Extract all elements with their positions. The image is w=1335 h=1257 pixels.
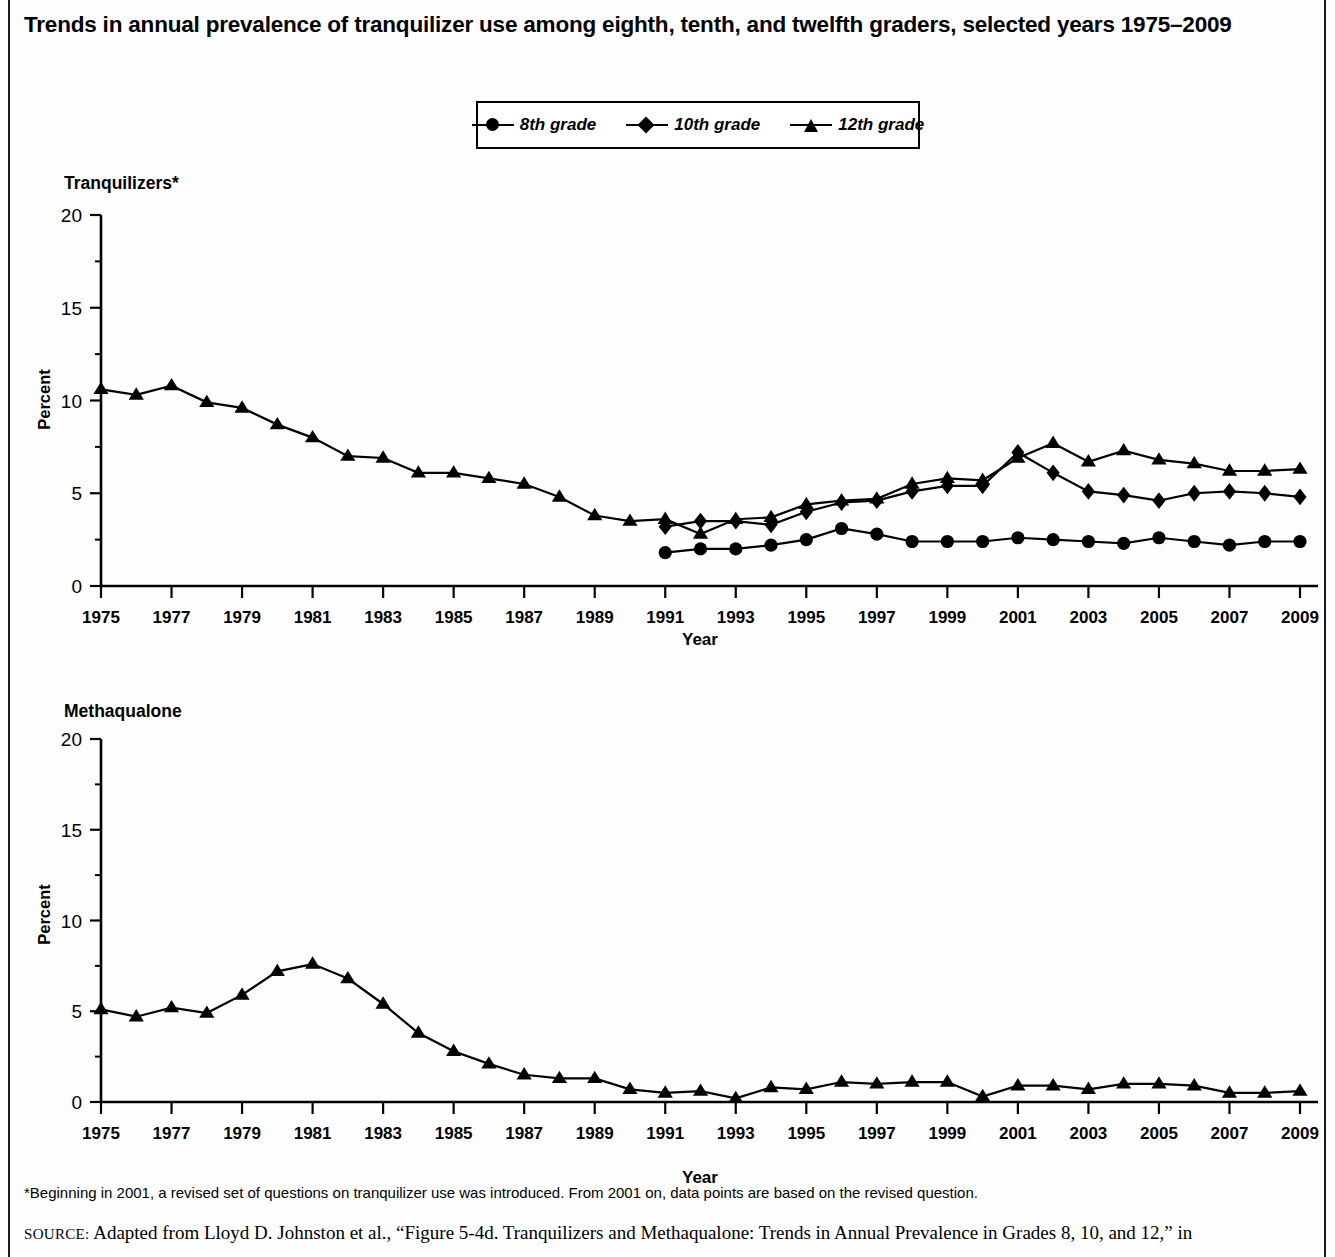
svg-text:15: 15 bbox=[61, 820, 82, 841]
svg-text:15: 15 bbox=[61, 298, 82, 319]
svg-text:1975: 1975 bbox=[82, 1124, 120, 1143]
svg-text:1993: 1993 bbox=[717, 1124, 755, 1143]
svg-text:1985: 1985 bbox=[435, 1124, 473, 1143]
svg-text:1999: 1999 bbox=[928, 1124, 966, 1143]
svg-text:1999: 1999 bbox=[928, 608, 966, 627]
svg-text:5: 5 bbox=[71, 483, 82, 504]
svg-text:1995: 1995 bbox=[787, 608, 825, 627]
svg-text:1989: 1989 bbox=[576, 1124, 614, 1143]
svg-text:0: 0 bbox=[71, 576, 82, 597]
svg-text:1991: 1991 bbox=[646, 608, 684, 627]
svg-text:1985: 1985 bbox=[435, 608, 473, 627]
svg-text:1991: 1991 bbox=[646, 1124, 684, 1143]
figure-page: Trends in annual prevalence of tranquili… bbox=[0, 0, 1335, 1257]
svg-text:1997: 1997 bbox=[858, 1124, 896, 1143]
plot-area-methaqualone: 0510152019751977197919811983198519871989… bbox=[0, 660, 1335, 1180]
svg-text:1981: 1981 bbox=[294, 1124, 332, 1143]
svg-text:1983: 1983 bbox=[364, 608, 402, 627]
svg-text:2003: 2003 bbox=[1069, 608, 1107, 627]
svg-text:10: 10 bbox=[61, 391, 82, 412]
svg-text:1989: 1989 bbox=[576, 608, 614, 627]
svg-text:10: 10 bbox=[61, 911, 82, 932]
figure-footnote: *Beginning in 2001, a revised set of que… bbox=[24, 1184, 978, 1201]
svg-text:1997: 1997 bbox=[858, 608, 896, 627]
svg-text:2009: 2009 bbox=[1281, 1124, 1319, 1143]
svg-text:1977: 1977 bbox=[153, 1124, 191, 1143]
svg-text:2005: 2005 bbox=[1140, 608, 1178, 627]
svg-text:2007: 2007 bbox=[1211, 1124, 1249, 1143]
svg-text:20: 20 bbox=[61, 205, 82, 226]
svg-text:2005: 2005 bbox=[1140, 1124, 1178, 1143]
svg-text:1981: 1981 bbox=[294, 608, 332, 627]
svg-text:1975: 1975 bbox=[82, 608, 120, 627]
svg-text:1987: 1987 bbox=[505, 1124, 543, 1143]
plot-area-tranquilizers: 0510152019751977197919811983198519871989… bbox=[0, 0, 1335, 660]
svg-text:1987: 1987 bbox=[505, 608, 543, 627]
svg-text:2001: 2001 bbox=[999, 608, 1037, 627]
svg-text:1995: 1995 bbox=[787, 1124, 825, 1143]
chart-panel-tranquilizers: Tranquilizers* Percent Year 051015201975… bbox=[0, 0, 1335, 660]
svg-text:5: 5 bbox=[71, 1001, 82, 1022]
svg-text:2003: 2003 bbox=[1069, 1124, 1107, 1143]
figure-source: SOURCE: Adapted from Lloyd D. Johnston e… bbox=[24, 1222, 1192, 1244]
svg-text:1993: 1993 bbox=[717, 608, 755, 627]
svg-text:2001: 2001 bbox=[999, 1124, 1037, 1143]
svg-text:2007: 2007 bbox=[1211, 608, 1249, 627]
source-prefix: SOURCE: bbox=[24, 1226, 89, 1242]
svg-text:1983: 1983 bbox=[364, 1124, 402, 1143]
svg-text:0: 0 bbox=[71, 1092, 82, 1113]
chart-panel-methaqualone: Methaqualone Percent Year 05101520197519… bbox=[0, 660, 1335, 1180]
svg-text:1977: 1977 bbox=[153, 608, 191, 627]
svg-text:2009: 2009 bbox=[1281, 608, 1319, 627]
svg-text:1979: 1979 bbox=[223, 608, 261, 627]
source-body: Adapted from Lloyd D. Johnston et al., “… bbox=[89, 1222, 1192, 1243]
svg-text:20: 20 bbox=[61, 729, 82, 750]
svg-text:1979: 1979 bbox=[223, 1124, 261, 1143]
